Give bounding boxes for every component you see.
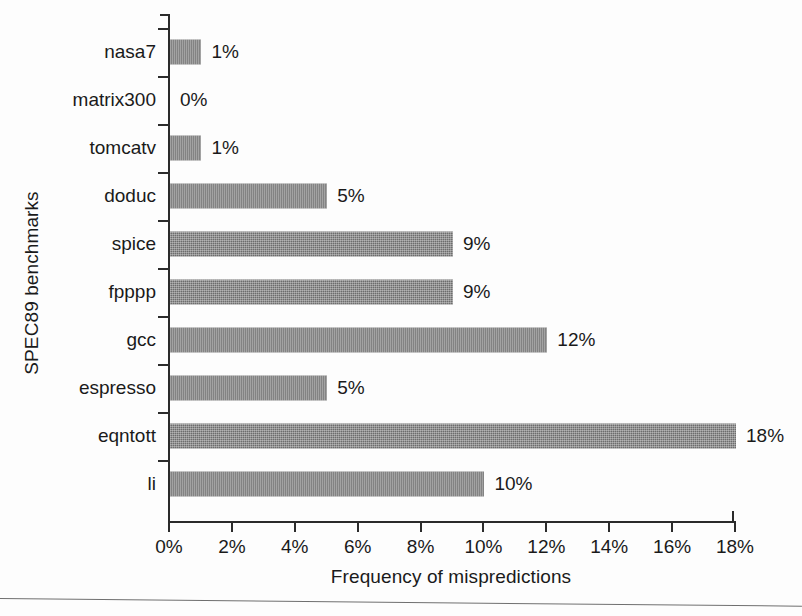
x-axis-tick — [420, 521, 422, 532]
x-axis-tick — [608, 521, 610, 532]
x-axis-tick-label: 16% — [653, 536, 691, 558]
y-axis-top-cap — [160, 14, 170, 16]
bar — [170, 472, 484, 497]
y-axis-tick — [158, 460, 168, 462]
x-axis-tick-label: 18% — [716, 536, 754, 558]
y-axis-tick — [158, 412, 168, 414]
bar — [170, 328, 547, 353]
bar-value-label: 1% — [211, 41, 238, 63]
chart-row: nasa71% — [168, 28, 734, 76]
bar-value-label: 18% — [746, 425, 784, 447]
y-axis-tick — [158, 268, 168, 270]
category-label: gcc — [126, 329, 156, 351]
x-axis-tick-label: 8% — [407, 536, 434, 558]
y-axis-tick — [158, 220, 168, 222]
category-label: nasa7 — [104, 41, 156, 63]
x-axis-tick — [734, 521, 736, 532]
bar — [170, 376, 327, 401]
x-axis-tick-label: 6% — [344, 536, 371, 558]
category-label: eqntott — [98, 425, 156, 447]
x-axis-tick-label: 2% — [218, 536, 245, 558]
y-axis-tick — [158, 364, 168, 366]
chart-row: tomcatv1% — [168, 124, 734, 172]
bar-value-label: 1% — [211, 137, 238, 159]
bar — [170, 136, 201, 161]
bar-chart-figure: SPEC89 benchmarks nasa71%matrix3000%tomc… — [0, 0, 802, 616]
bar — [170, 280, 453, 305]
x-axis-tick — [357, 521, 359, 532]
chart-row: espresso5% — [168, 364, 734, 412]
bar-value-label: 10% — [494, 473, 532, 495]
y-axis-tick — [158, 76, 168, 78]
bar-value-label: 9% — [463, 281, 490, 303]
x-axis-tick — [482, 521, 484, 532]
chart-row: spice9% — [168, 220, 734, 268]
plot-area: nasa71%matrix3000%tomcatv1%doduc5%spice9… — [168, 14, 734, 521]
x-axis-tick-label: 12% — [527, 536, 565, 558]
chart-row: eqntott18% — [168, 412, 734, 460]
y-axis-title: SPEC89 benchmarks — [21, 163, 43, 403]
category-label: espresso — [79, 377, 156, 399]
y-axis-tick — [158, 172, 168, 174]
category-label: spice — [112, 233, 156, 255]
chart-row: fpppp9% — [168, 268, 734, 316]
bar — [170, 232, 453, 257]
y-axis-tick — [158, 316, 168, 318]
chart-row: gcc12% — [168, 316, 734, 364]
x-axis-tick-label: 4% — [281, 536, 308, 558]
bar-value-label: 5% — [337, 377, 364, 399]
bar — [170, 184, 327, 209]
bar-value-label: 12% — [557, 329, 595, 351]
y-axis-tick — [158, 28, 168, 30]
category-label: li — [148, 473, 156, 495]
bar-value-label: 0% — [180, 89, 207, 111]
category-label: tomcatv — [89, 137, 156, 159]
x-axis-tick — [294, 521, 296, 532]
x-axis-tick — [671, 521, 673, 532]
x-axis-tick-label: 0% — [155, 536, 182, 558]
bar — [170, 424, 736, 449]
chart-row: li10% — [168, 460, 734, 508]
category-label: doduc — [104, 185, 156, 207]
bar-value-label: 5% — [337, 185, 364, 207]
x-axis-tick — [545, 521, 547, 532]
chart-row: doduc5% — [168, 172, 734, 220]
x-axis-tick-label: 14% — [590, 536, 628, 558]
x-axis-line — [168, 521, 734, 523]
x-axis-tick — [231, 521, 233, 532]
x-axis-title: Frequency of mispredictions — [168, 566, 734, 588]
x-axis-tick — [168, 521, 170, 532]
y-axis-tick — [158, 124, 168, 126]
x-axis-tick-label: 10% — [464, 536, 502, 558]
bar — [170, 40, 201, 65]
category-label: matrix300 — [73, 89, 156, 111]
page-edge-line — [0, 598, 802, 607]
chart-row: matrix3000% — [168, 76, 734, 124]
category-label: fpppp — [108, 281, 156, 303]
bar-value-label: 9% — [463, 233, 490, 255]
